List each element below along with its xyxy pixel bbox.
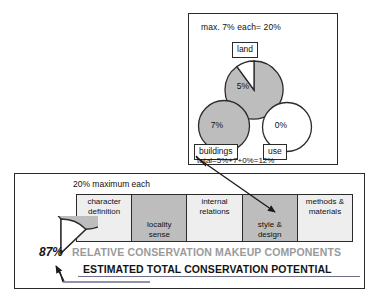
top-panel-total-text: total=5%+7+0%=12% — [197, 156, 274, 165]
component-row: character definition locality sense inte… — [76, 194, 353, 242]
pie-value-buildings: 7% — [197, 120, 237, 130]
component-style-design: style & design — [243, 195, 298, 241]
top-panel-title: max. 7% each= 20% — [201, 22, 281, 32]
pie-value-total-potential: 87% — [39, 245, 63, 259]
banner-relative-conservation: RELATIVE CONSERVATION MAKEUP COMPONENTS — [72, 246, 360, 258]
bottom-panel-title: 20% maximum each — [73, 179, 150, 189]
component-internal-relations: internal relations — [187, 195, 242, 241]
diagram-canvas: max. 7% each= 20% land 5% 7% buildings 0… — [0, 0, 379, 302]
conservation-quota-panel: max. 7% each= 20% land 5% 7% buildings 0… — [188, 13, 338, 165]
component-methods-materials: methods & materials — [298, 195, 352, 241]
component-locality-sense: locality sense — [132, 195, 187, 241]
pie-value-land: 5% — [223, 81, 263, 91]
pie-label-land: land — [232, 42, 258, 58]
banner-underline — [78, 276, 360, 277]
pie-value-use: 0% — [261, 120, 301, 130]
banner-estimated-total: ESTIMATED TOTAL CONSERVATION POTENTIAL — [83, 263, 361, 275]
